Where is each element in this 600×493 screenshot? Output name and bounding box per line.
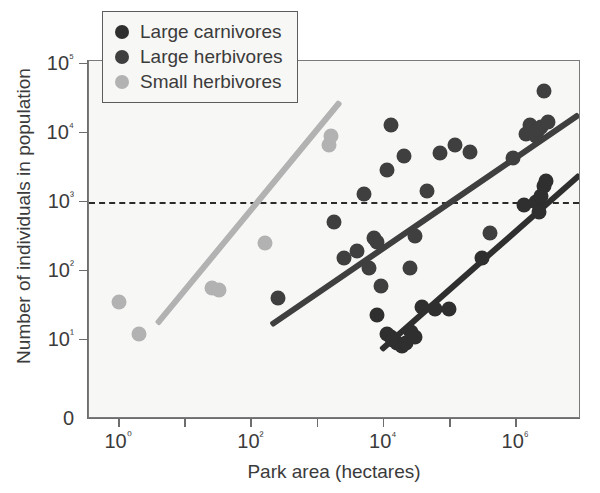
data-point (362, 260, 377, 275)
y-tick-label: 10² (0, 258, 74, 281)
scatter-chart-figure: Number of individuals in population 10⁵1… (0, 0, 600, 493)
x-minor-tick (317, 418, 319, 427)
regression-line (270, 112, 580, 327)
data-point (531, 205, 546, 220)
data-point (462, 145, 477, 160)
data-point (370, 307, 385, 322)
data-point (448, 138, 463, 153)
x-minor-tick (449, 418, 451, 427)
y-tick-label: 10⁵ (0, 51, 74, 74)
x-tick-label: 10⁴ (369, 430, 396, 453)
data-point (538, 173, 553, 188)
x-tick (250, 418, 252, 427)
legend-marker-icon (115, 75, 129, 89)
x-minor-tick (184, 418, 186, 427)
legend-item-label: Large herbivores (140, 46, 283, 68)
x-tick (383, 418, 385, 427)
x-tick-label: 10⁰ (104, 430, 131, 453)
data-point (370, 234, 385, 249)
data-point (482, 225, 497, 240)
legend-item[interactable]: Small herbivores (115, 69, 283, 94)
data-point (420, 184, 435, 199)
y-tick (79, 63, 88, 65)
data-point (396, 149, 411, 164)
data-point (536, 83, 551, 98)
legend-item[interactable]: Large herbivores (115, 44, 283, 69)
data-point (506, 151, 521, 166)
data-point (257, 236, 272, 251)
y-tick-label: 10⁴ (0, 120, 74, 143)
x-axis-title: Park area (hectares) (88, 461, 580, 483)
legend-item[interactable]: Large carnivores (115, 19, 283, 44)
plot-area (88, 60, 580, 418)
x-tick-label: 10⁶ (502, 430, 529, 453)
chart-legend: Large carnivoresLarge herbivoresSmall he… (102, 11, 298, 103)
data-point (350, 244, 365, 259)
data-point (131, 327, 146, 342)
data-point (441, 301, 456, 316)
y-tick-label: 10³ (0, 189, 74, 212)
data-point (356, 186, 371, 201)
data-point (474, 251, 489, 266)
y-tick-label: 10¹ (0, 327, 74, 350)
data-point (327, 215, 342, 230)
data-point (408, 228, 423, 243)
data-point (379, 162, 394, 177)
data-point (540, 115, 555, 130)
data-point (408, 329, 423, 344)
x-tick (118, 418, 120, 427)
y-tick (79, 201, 88, 203)
legend-marker-icon (115, 25, 129, 39)
x-tick (515, 418, 517, 427)
y-tick-label: 0 (0, 407, 74, 430)
legend-item-label: Large carnivores (140, 21, 282, 43)
legend-item-label: Small herbivores (140, 71, 282, 93)
data-point (324, 128, 339, 143)
x-tick-label: 10² (237, 430, 263, 453)
data-point (270, 290, 285, 305)
y-tick (79, 270, 88, 272)
legend-marker-icon (115, 50, 129, 64)
y-tick (79, 132, 88, 134)
data-point (373, 278, 388, 293)
data-point (432, 146, 447, 161)
data-point (211, 283, 226, 298)
data-point (403, 260, 418, 275)
y-tick (79, 339, 88, 341)
data-point (112, 294, 127, 309)
minimum-viable-population-line (89, 202, 579, 204)
data-point (384, 117, 399, 132)
